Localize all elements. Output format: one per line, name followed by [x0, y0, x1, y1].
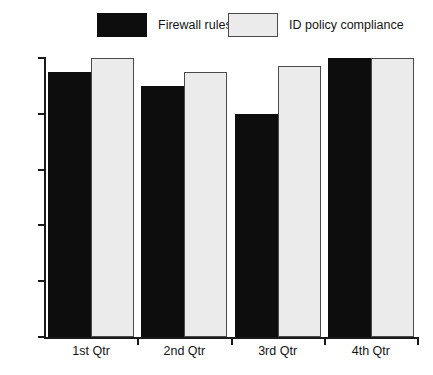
x-axis-category-label: 3rd Qtr: [258, 345, 297, 358]
bar: [235, 114, 278, 337]
x-axis-category-label: 1st Qtr: [72, 345, 110, 358]
legend-entry-id-policy-compliance: ID policy compliance: [228, 12, 404, 38]
bar: [184, 72, 227, 337]
bar: [371, 58, 414, 337]
x-tick-mark: [324, 337, 326, 345]
legend-entry-firewall-rules: Firewall rules: [97, 12, 232, 38]
bar: [141, 86, 184, 337]
y-tick-mark: [38, 224, 45, 226]
bar: [48, 72, 91, 337]
y-tick-mark: [38, 113, 45, 115]
legend-label-id-policy-compliance: ID policy compliance: [289, 19, 404, 32]
plot-area: 020406080100: [45, 58, 418, 337]
bar: [278, 66, 321, 337]
x-tick-mark: [417, 337, 419, 345]
x-tick-mark: [137, 337, 139, 345]
chart-legend: Firewall rules ID policy compliance: [0, 12, 433, 38]
y-tick-mark: [38, 336, 45, 338]
x-tick-mark: [231, 337, 233, 345]
legend-swatch-firewall-rules: [97, 13, 147, 37]
legend-swatch-id-policy-compliance: [228, 13, 278, 37]
bar: [91, 58, 134, 337]
y-tick-mark: [38, 57, 45, 59]
y-tick-mark: [38, 169, 45, 171]
x-axis-category-label: 2nd Qtr: [164, 345, 206, 358]
y-tick-mark: [38, 280, 45, 282]
bar-chart: Firewall rules ID policy compliance 0204…: [0, 0, 433, 375]
bar: [328, 58, 371, 337]
y-axis-line: [44, 57, 46, 338]
legend-label-firewall-rules: Firewall rules: [158, 19, 232, 32]
x-axis-category-label: 4th Qtr: [352, 345, 390, 358]
